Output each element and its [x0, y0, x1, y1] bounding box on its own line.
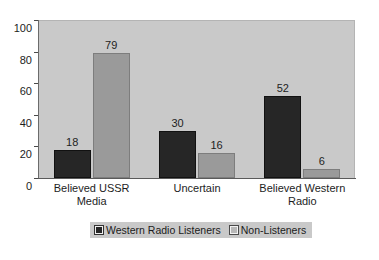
bar-value-label: 52	[258, 82, 307, 94]
bar	[54, 150, 91, 178]
bar	[264, 96, 301, 178]
legend-swatch-icon	[230, 226, 238, 234]
bar-value-label: 18	[48, 136, 97, 148]
legend-item[interactable]: Non-Listeners	[230, 224, 306, 236]
x-category-label-line: Media	[77, 195, 107, 207]
y-tick-label: 60	[0, 85, 32, 97]
bar-value-label: 79	[87, 39, 136, 51]
bar-value-label: 30	[153, 117, 202, 129]
y-tick-label: 20	[0, 148, 32, 160]
chart-legend: Western Radio ListenersNon-Listeners	[90, 222, 312, 238]
legend-item[interactable]: Western Radio Listeners	[95, 224, 221, 236]
legend-label: Western Radio Listeners	[106, 224, 221, 236]
bar	[198, 153, 235, 178]
x-category-label: Believed USSRMedia	[39, 182, 144, 208]
bars-layer: 18793016526	[39, 20, 355, 178]
x-category-label: Uncertain	[144, 182, 249, 195]
x-axis-line	[38, 178, 356, 179]
x-category-label-line: Radio	[288, 195, 317, 207]
y-tick-label: 80	[0, 54, 32, 66]
x-category-label: Believed WesternRadio	[250, 182, 355, 208]
x-axis-category-labels: Believed USSRMediaUncertainBelieved West…	[39, 182, 355, 216]
legend-swatch-icon	[95, 226, 103, 234]
bar-value-label: 16	[192, 139, 241, 151]
x-category-label-line: Believed Western	[259, 182, 345, 194]
y-tick-label: 100	[0, 22, 32, 34]
bar	[159, 131, 196, 178]
bar-value-label: 6	[297, 155, 346, 167]
bar	[303, 169, 340, 178]
legend-label: Non-Listeners	[241, 224, 306, 236]
y-tick-label: 0	[0, 180, 32, 192]
bar-chart: 020406080100 18793016526 Believed USSRMe…	[0, 0, 379, 260]
x-category-label-line: Believed USSR	[54, 182, 130, 194]
chart-title	[0, 0, 379, 2]
x-category-label-line: Uncertain	[173, 182, 220, 194]
y-axis: 020406080100	[0, 14, 32, 184]
bar	[93, 53, 130, 178]
y-tick-label: 40	[0, 117, 32, 129]
